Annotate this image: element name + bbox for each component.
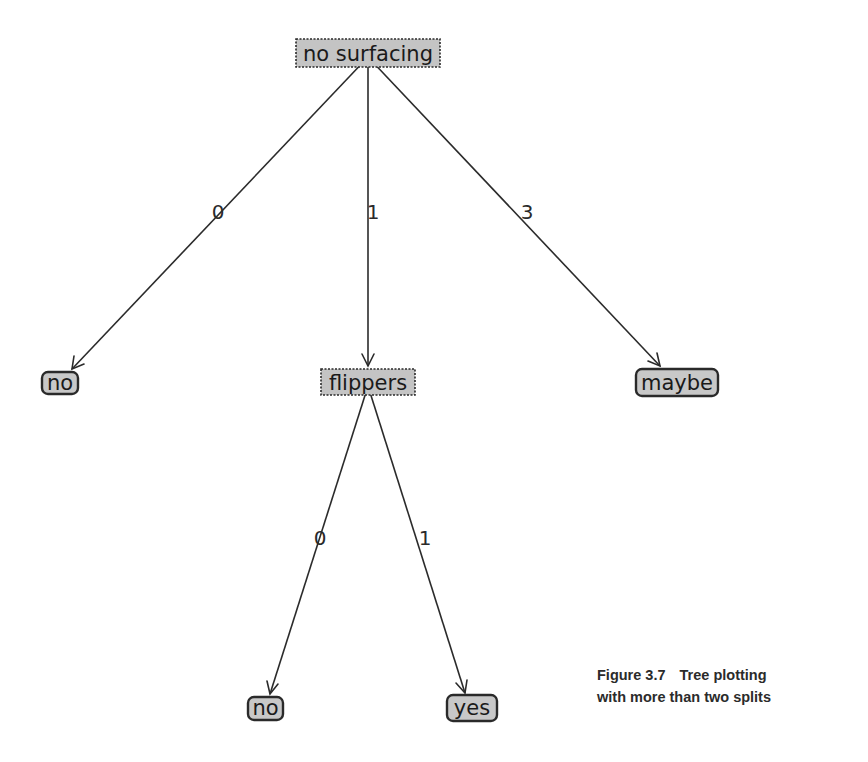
edge-label-flippers-yes: 1 (419, 526, 432, 550)
caption-line-1: Figure 3.7 Tree plotting (597, 664, 771, 686)
node-label: no (47, 371, 73, 395)
leaf-node-yes: yes (447, 695, 497, 721)
node-label: no (252, 696, 278, 720)
leaf-node-maybe: maybe (636, 369, 718, 396)
leaf-node-no-left: no (42, 371, 78, 395)
leaf-node-no-bottom: no (248, 696, 283, 720)
caption-title: Tree plotting (680, 667, 767, 683)
node-label: flippers (329, 371, 407, 395)
figure-number: Figure 3.7 (597, 667, 666, 683)
node-label: no surfacing (303, 42, 433, 66)
edge-flippers-to-yes (368, 386, 467, 693)
edge-label-flippers-no: 0 (314, 526, 327, 550)
node-label: yes (454, 696, 490, 720)
edge-label-root-maybe: 3 (521, 200, 534, 224)
figure-caption: Figure 3.7 Tree plotting with more than … (597, 664, 771, 708)
decision-tree-diagram: 0 1 3 0 1 no surfacing no flippers maybe… (0, 0, 868, 762)
edge-root-to-maybe (368, 57, 660, 366)
edge-label-root-no: 0 (212, 200, 225, 224)
node-label: maybe (641, 371, 713, 395)
caption-line-2: with more than two splits (597, 686, 771, 708)
edge-label-root-flippers: 1 (367, 200, 380, 224)
decision-node-flippers: flippers (321, 369, 415, 395)
decision-node-no-surfacing: no surfacing (296, 39, 440, 67)
